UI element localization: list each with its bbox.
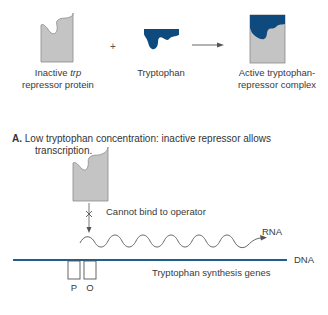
blocked-arrowhead-icon: [87, 227, 92, 233]
active-complex-label: Active tryptophan- repressor complex: [226, 67, 328, 91]
operator-label: O: [82, 282, 98, 294]
operator-box: [84, 261, 96, 279]
dna-label: DNA: [294, 254, 314, 266]
section-a-title-line2: transcription.: [35, 145, 92, 157]
tryptophan-shape: [144, 29, 179, 49]
active-label-line1: Active tryptophan-: [239, 67, 316, 78]
promoter-label: P: [66, 282, 82, 294]
section-a-heading: A. Low tryptophan concentration: inactiv…: [12, 133, 271, 145]
inactive-label-prefix: Inactive: [35, 67, 70, 78]
rna-label: RNA: [262, 226, 282, 238]
cannot-bind-annotation: Cannot bind to operator: [106, 206, 206, 218]
section-a-title-line1: Low tryptophan concentration: inactive r…: [25, 133, 271, 144]
tryptophan-label: Tryptophan: [120, 67, 202, 79]
inactive-repressor-label: Inactive trp repressor protein: [12, 67, 104, 91]
tryptophan-synthesis-genes-label: Tryptophan synthesis genes: [152, 267, 270, 279]
active-label-line2: repressor complex: [238, 79, 316, 90]
inactive-repressor-shape: [41, 13, 73, 62]
section-a-letter: A.: [12, 133, 22, 144]
promoter-box: [68, 261, 80, 279]
trp-italic: trp: [70, 67, 81, 78]
rna-wave: [80, 235, 262, 248]
inactive-label-line2: repressor protein: [22, 79, 94, 90]
plus-sign: +: [110, 41, 116, 52]
reaction-arrowhead-icon: [217, 43, 224, 48]
